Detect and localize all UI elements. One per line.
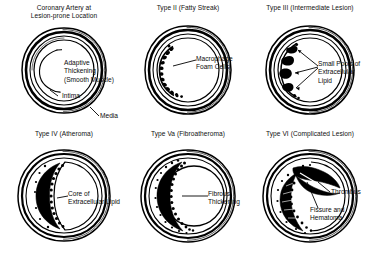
label-small-pools-extracellular-lipid: Small Pools of Extracellular Lipid	[318, 60, 360, 85]
small-lipid-pools	[279, 43, 299, 99]
lipid-core-leader-line	[57, 196, 68, 198]
panel-type-iii-intermediate-lesion: Type III (Intermediate Lesion)	[248, 4, 372, 133]
macrophage-foam-cell-deposits	[159, 45, 183, 99]
fissure-leader-line	[307, 182, 318, 208]
label-core-of-extracellular-lipid: Core of Extracellular Lipid	[68, 190, 120, 207]
label-thrombus: Thrombus	[331, 188, 361, 196]
panel-coronary-artery-lesion-prone: Coronary Artery at Lesion-prone Location	[2, 4, 126, 133]
panel-type-ii-fatty-streak: Type II (Fatty Streak)	[126, 4, 250, 133]
label-adaptive-thickening: Adaptive Thickening (Smooth Muscle)	[64, 59, 114, 84]
label-media: Media	[100, 112, 118, 120]
label-fissure-and-hematoma: Fissure and Hematoma	[310, 206, 344, 223]
label-intima: Intima	[62, 92, 80, 100]
atherosclerosis-progression-figure: Coronary Artery at Lesion-prone Location	[0, 0, 374, 258]
lipid-pool-leader-lines	[295, 50, 318, 88]
label-macrophage-foam-cells: Macrophage Foam Cells	[196, 55, 233, 72]
panel-type-iv-atheroma: Type IV (Atheroma)	[2, 130, 126, 258]
media-leader-line	[90, 107, 99, 116]
panel-type-vi-complicated-lesion: Type VI (Complicated Lesion)	[248, 130, 372, 258]
adaptive-thickening-bracket	[39, 50, 61, 92]
panel-type-va-fibroatheroma: Type Va (Fibroatheroma)	[126, 130, 250, 258]
macrophage-leader-line	[173, 60, 196, 66]
label-fibrous-thickening: Fibrous Thickening	[208, 190, 240, 207]
